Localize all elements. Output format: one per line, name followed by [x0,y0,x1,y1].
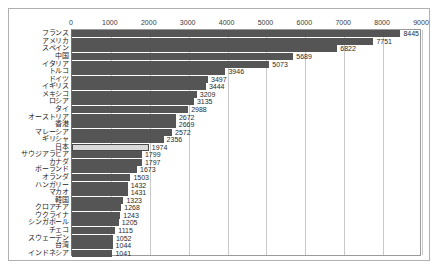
x-axis-tick-label: 7000 [335,17,351,28]
bar[interactable] [72,129,172,136]
bar-row[interactable]: 6822 [72,45,420,52]
bar[interactable] [72,189,128,196]
bar[interactable] [72,136,164,143]
bar[interactable] [72,250,112,257]
bar-row[interactable]: 1431 [72,189,420,196]
y-axis-category-labels: フランスアメリカスペイン中国イタリアトルコドイツイギリスメキシコロシアタイオース… [9,29,69,256]
bar-row[interactable]: 2669 [72,121,420,128]
x-axis-tick-label: 6000 [297,17,313,28]
bar[interactable] [72,204,121,211]
bar-row[interactable]: 7751 [72,38,420,45]
bar-row[interactable]: 1673 [72,166,420,173]
bar[interactable] [72,91,197,98]
bar[interactable] [72,98,194,105]
bar[interactable] [72,219,119,226]
category-label: インドネシア [9,248,69,257]
gridline [422,30,423,255]
plot-area: 8445775168225689507339463497344432093135… [71,29,421,256]
bar-highlighted[interactable] [72,144,149,151]
chart-plot-wrapper: 0100020003000400050006000700080009000 84… [9,9,431,262]
bar[interactable] [72,182,128,189]
bar[interactable] [72,227,115,234]
x-axis-tick-label: 1000 [102,17,118,28]
bar[interactable] [72,235,113,242]
bar-row[interactable]: 1041 [72,250,420,257]
x-axis-tick-label: 2000 [141,17,157,28]
bar[interactable] [72,106,188,113]
bar[interactable] [72,159,142,166]
bar-row[interactable]: 1799 [72,151,420,158]
bar[interactable] [72,83,206,90]
bar[interactable] [72,114,176,121]
bar[interactable] [72,53,293,60]
bar[interactable] [72,166,137,173]
chart-frame: 0100020003000400050006000700080009000 84… [8,8,430,261]
bar-row[interactable]: 8445 [72,30,420,37]
bar-row[interactable]: 1974 [72,144,420,151]
bar[interactable] [72,121,176,128]
bar-row[interactable]: 2572 [72,129,420,136]
x-axis-tick-label: 8000 [374,17,390,28]
bar-value-label: 1041 [115,249,131,258]
x-axis-tick-labels: 0100020003000400050006000700080009000 [9,17,431,28]
bar[interactable] [72,151,142,158]
x-axis-tick-label: 5000 [258,17,274,28]
bar-row[interactable]: 3497 [72,76,420,83]
bar-row[interactable]: 2356 [72,136,420,143]
bar-row[interactable]: 2988 [72,106,420,113]
bar[interactable] [72,174,130,181]
bar-row[interactable]: 5073 [72,61,420,68]
bar-row[interactable]: 3444 [72,83,420,90]
x-axis-tick-label: 0 [69,17,73,28]
y-axis-label-row: インドネシア [9,249,69,256]
bar[interactable] [72,197,123,204]
x-axis-tick-label: 3000 [180,17,196,28]
bar-row[interactable]: 1503 [72,174,420,181]
x-axis-tick-label: 4000 [219,17,235,28]
bar[interactable] [72,212,120,219]
bar[interactable] [72,30,400,37]
bar[interactable] [72,242,113,249]
bar[interactable] [72,38,373,45]
bar[interactable] [72,76,208,83]
bar-row[interactable]: 3946 [72,68,420,75]
bar[interactable] [72,68,225,75]
bar-row[interactable]: 5689 [72,53,420,60]
bar-row[interactable]: 1797 [72,159,420,166]
bar-row[interactable]: 2672 [72,114,420,121]
x-axis-tick-label: 9000 [413,17,429,28]
bar-row[interactable]: 3209 [72,91,420,98]
bar-row[interactable]: 1432 [72,182,420,189]
bar-row[interactable]: 3135 [72,98,420,105]
bar-series: 8445775168225689507339463497344432093135… [72,30,420,255]
